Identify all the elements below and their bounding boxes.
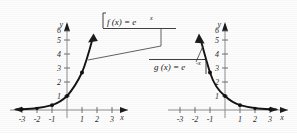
left-xtick-label--3: -3 <box>19 115 26 124</box>
left-y-axis-arrowhead <box>64 22 70 31</box>
right-xtick-label-3: 3 <box>267 115 272 124</box>
left-ytick-label-1: 1 <box>57 92 61 101</box>
left-curve-arrowhead-upper-right <box>88 34 98 43</box>
left-ytick-label-4: 4 <box>57 50 61 59</box>
left-point--3 <box>20 108 23 111</box>
right-ytick-label-3: 3 <box>214 64 219 73</box>
right-callout-text: g (x) = e <box>154 62 185 72</box>
right-ytick-label-4: 4 <box>215 50 219 59</box>
right-xtick-label--2: -2 <box>192 115 199 124</box>
left-ytick-label-2: 2 <box>57 78 61 87</box>
left-xtick-label--2: -2 <box>34 115 41 124</box>
right-x-axis-label: x <box>279 113 284 122</box>
right-xtick-label-2: 2 <box>253 115 257 124</box>
right-callout-label: g (x) = e -x <box>149 60 206 75</box>
left-callout-exponent: x <box>149 15 153 21</box>
right-y-axis-arrowhead <box>222 22 228 31</box>
left-point--2 <box>35 107 38 110</box>
right-point-0 <box>223 94 227 98</box>
left-y-axis-label: y <box>58 20 63 29</box>
right-xtick-label-1: 1 <box>238 115 242 124</box>
left-ytick-label-5: 5 <box>57 36 61 45</box>
panel-left-exponential-growth: -3 -2 -1 1 2 3 1 2 3 4 5 6 x y <box>10 20 161 124</box>
left-ytick-label-3: 3 <box>56 64 61 73</box>
right-xtick-label--1: -1 <box>207 115 214 124</box>
panel-right-exponential-decay: -3 -2 -1 1 2 3 1 2 3 4 5 6 x y <box>168 20 288 124</box>
left-point--1 <box>50 103 54 107</box>
figure-canvas: -3 -2 -1 1 2 3 1 2 3 4 5 6 x y <box>0 0 297 133</box>
right-point-3 <box>268 108 271 111</box>
right-curve-exponential-decay <box>201 39 277 109</box>
left-callout-bracket <box>103 13 106 28</box>
left-xtick-label-2: 2 <box>95 115 99 124</box>
left-point-1 <box>80 71 84 75</box>
right-point-2 <box>253 107 256 110</box>
right-callout-exponent: -x <box>196 60 201 66</box>
right-point--1 <box>208 71 212 75</box>
left-callout-leader-line <box>88 29 161 60</box>
right-y-axis-label: y <box>216 20 221 29</box>
left-point-0 <box>65 94 69 98</box>
left-x-axis-label: x <box>119 113 124 122</box>
right-callout-bracket <box>203 60 206 75</box>
right-point-1 <box>238 103 242 107</box>
left-callout-text: f (x) = e <box>107 17 136 27</box>
exponential-functions-figure: -3 -2 -1 1 2 3 1 2 3 4 5 6 x y <box>0 0 297 133</box>
right-ytick-label-5: 5 <box>215 36 219 45</box>
right-curve-arrowhead-upper-left <box>195 34 205 44</box>
left-xtick-label--1: -1 <box>49 115 56 124</box>
right-ytick-label-1: 1 <box>215 92 219 101</box>
right-xtick-label--3: -3 <box>177 115 184 124</box>
left-xtick-label-3: 3 <box>109 115 114 124</box>
left-callout-label: f (x) = e x <box>103 13 176 29</box>
left-xtick-label-1: 1 <box>80 115 84 124</box>
